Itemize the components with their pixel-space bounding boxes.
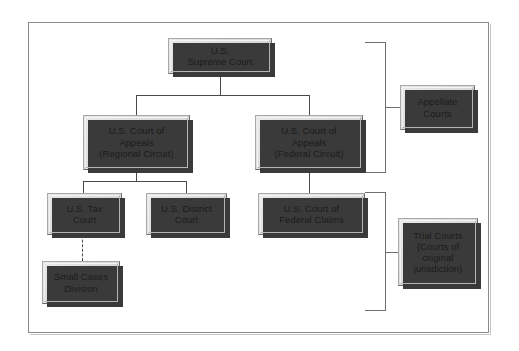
node-district-court-label: U.S. District Court (158, 203, 215, 226)
node-tax-court-label: U.S. Tax Court (63, 203, 105, 226)
node-court-of-appeals-federal-circuit-label: U.S. Court of Appeals (Federal Circuit) (272, 125, 347, 160)
appellate-bracket-top-arm (365, 42, 386, 43)
node-supreme-court-label: U.S. Supreme Court (184, 45, 255, 68)
node-court-of-appeals-regional-circuit-label: U.S. Court of Appeals (Regional Circuit) (96, 125, 176, 160)
group-label-appellate-courts[interactable]: Appellate Courts (400, 85, 475, 130)
group-label-trial-courts[interactable]: Trial Courts (Courts of original jurisdi… (398, 218, 478, 286)
trial-bracket-label-connector (385, 252, 399, 253)
node-district-court[interactable]: U.S. District Court (146, 193, 227, 235)
connector-trial-bus (83, 181, 187, 182)
node-court-of-appeals-federal-circuit[interactable]: U.S. Court of Appeals (Federal Circuit) (255, 115, 363, 170)
connector-to-appeals-regional (136, 95, 137, 115)
node-supreme-court[interactable]: U.S. Supreme Court (168, 38, 272, 74)
group-label-trial-courts-label: Trial Courts (Courts of original jurisdi… (410, 230, 465, 274)
node-court-of-federal-claims-label: U.S. Court of Federal Claims (276, 203, 347, 226)
court-system-diagram: U.S. Supreme Court U.S. Court of Appeals… (0, 0, 519, 351)
connector-appeals-bus (136, 95, 309, 96)
trial-bracket-spine (385, 192, 386, 310)
connector-federal-to-claims (309, 170, 310, 193)
node-court-of-appeals-regional-circuit[interactable]: U.S. Court of Appeals (Regional Circuit) (83, 115, 190, 170)
trial-bracket-bottom-arm (365, 310, 386, 311)
appellate-bracket-bottom-arm (365, 172, 386, 173)
connector-to-district-court (186, 181, 187, 193)
connector-to-tax-court (83, 181, 84, 193)
connector-tax-to-small-cases (82, 235, 83, 261)
node-court-of-federal-claims[interactable]: U.S. Court of Federal Claims (258, 193, 365, 235)
appellate-bracket-label-connector (385, 107, 401, 108)
trial-bracket-top-arm (365, 192, 386, 193)
node-small-cases-division[interactable]: Small Cases Division (42, 261, 120, 304)
connector-to-appeals-federal (309, 95, 310, 115)
node-tax-court[interactable]: U.S. Tax Court (47, 193, 122, 235)
node-small-cases-division-label: Small Cases Division (51, 271, 111, 294)
group-label-appellate-courts-label: Appellate Courts (414, 96, 460, 119)
connector-regional-down (136, 170, 137, 181)
connector-supreme-down (220, 74, 221, 95)
